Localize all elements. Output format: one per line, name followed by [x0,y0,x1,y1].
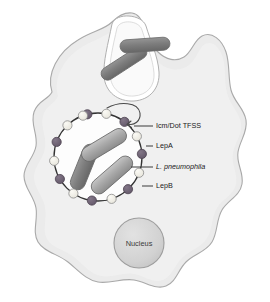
lepa-marker-dot [132,132,141,141]
label-lepa: LepA [156,141,173,150]
lepa-marker-dot [134,168,143,177]
lepa-marker-dot [69,189,78,198]
lepa-marker-dot [107,194,116,203]
legionella-vacuole-diagram: Nucleus Icm/Dot TFSSLepAL. pneumophilaLe… [0,0,270,302]
lepb-marker-dot [52,137,61,146]
lepb-marker-dot [123,185,132,194]
lepa-marker-dot [50,156,59,165]
lepb-marker-dot [87,196,96,205]
lepa-marker-dot [63,121,72,130]
label-lepb: LepB [156,181,173,190]
lepb-marker-dot [137,149,146,158]
lepb-marker-dot [55,174,64,183]
label-l-pneumophila: L. pneumophila [156,162,205,171]
lepa-marker-dot [102,109,111,118]
lepa-marker-dot [78,111,87,120]
nucleus-label: Nucleus [126,239,153,248]
label-icm-dot-tfss: Icm/Dot TFSS [156,121,201,130]
nucleus: Nucleus [114,218,164,268]
